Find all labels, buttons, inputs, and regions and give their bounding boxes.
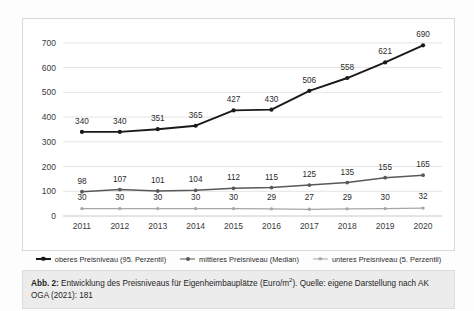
- line-chart-svg: 0100200300400500600700 20112012201320142…: [23, 19, 456, 252]
- data-point: [232, 186, 236, 190]
- y-tick-label: 400: [42, 112, 56, 122]
- data-point: [346, 207, 349, 210]
- data-point: [194, 207, 197, 210]
- data-point-label: 104: [189, 175, 203, 184]
- y-tick-label: 200: [42, 162, 56, 172]
- data-point-label: 32: [418, 192, 428, 201]
- data-point-label: 558: [340, 63, 354, 72]
- data-point-label: 30: [381, 193, 391, 202]
- data-point: [270, 207, 273, 210]
- data-point-label: 115: [265, 173, 278, 182]
- data-point-label: 621: [378, 47, 392, 56]
- data-point: [383, 207, 386, 210]
- legend-label: oberes Preisniveau (95. Perzentil): [55, 255, 166, 264]
- data-point: [118, 207, 121, 210]
- x-tick-label: 2014: [186, 221, 205, 231]
- data-point: [118, 188, 122, 192]
- figure-caption: Abb. 2: Entwicklung des Preisniveaus für…: [22, 270, 455, 309]
- data-point-label: 427: [227, 95, 241, 104]
- data-point-label: 340: [75, 117, 89, 126]
- data-point-label: 30: [191, 193, 201, 202]
- data-point-label: 351: [151, 114, 165, 123]
- chart-legend: oberes Preisniveau (95. Perzentil)mittle…: [22, 251, 455, 267]
- data-point: [80, 130, 84, 134]
- x-tick-label: 2019: [376, 221, 395, 231]
- data-point-labels: 3403403513654274305065586216909810710110…: [75, 30, 430, 202]
- legend-marker-icon: [180, 255, 195, 263]
- legend-item[interactable]: unteres Preisniveau (5. Perzentil): [313, 255, 441, 264]
- data-point: [308, 208, 311, 211]
- legend-label: mittleres Preisniveau (Median): [199, 255, 299, 264]
- x-tick-label: 2016: [262, 221, 281, 231]
- legend-item[interactable]: oberes Preisniveau (95. Perzentil): [36, 255, 166, 264]
- data-series-group: [80, 43, 425, 211]
- data-point-label: 101: [151, 176, 165, 185]
- data-point: [118, 130, 122, 134]
- data-point-label: 340: [113, 117, 127, 126]
- data-point: [307, 183, 311, 187]
- data-point-label: 125: [303, 170, 317, 179]
- caption-label: Abb. 2:: [31, 279, 59, 288]
- data-point-label: 365: [189, 111, 203, 120]
- data-point-label: 27: [305, 193, 315, 202]
- data-point: [80, 207, 83, 210]
- data-point-label: 430: [265, 95, 279, 104]
- figure-container: 0100200300400500600700 20112012201320142…: [0, 0, 474, 311]
- y-tick-label: 0: [51, 211, 56, 221]
- data-point-label: 135: [340, 168, 354, 177]
- y-tick-label: 500: [42, 87, 56, 97]
- y-tick-label: 600: [42, 63, 56, 73]
- data-point: [270, 186, 274, 190]
- x-tick-label: 2011: [73, 221, 92, 231]
- data-point: [307, 89, 311, 93]
- data-point-label: 690: [416, 30, 430, 39]
- x-tick-label: 2018: [338, 221, 357, 231]
- data-point: [421, 173, 425, 177]
- data-point: [156, 127, 160, 131]
- y-tick-label: 700: [42, 38, 56, 48]
- series-line: [82, 45, 423, 132]
- legend-marker-icon: [313, 255, 328, 263]
- data-point-label: 112: [227, 173, 240, 182]
- data-point: [383, 60, 387, 64]
- x-tick-label: 2013: [148, 221, 167, 231]
- data-point: [231, 108, 235, 112]
- data-point: [383, 176, 387, 180]
- y-axis-tick-labels: 0100200300400500600700: [42, 38, 56, 221]
- data-point: [232, 207, 235, 210]
- data-point-label: 107: [113, 175, 127, 184]
- legend-item[interactable]: mittleres Preisniveau (Median): [180, 255, 299, 264]
- series-line: [82, 208, 423, 209]
- y-tick-label: 300: [42, 137, 56, 147]
- x-axis-tick-labels: 2011201220132014201520162017201820192020: [73, 221, 433, 231]
- data-point-label: 506: [303, 76, 317, 85]
- data-point-label: 165: [416, 160, 430, 169]
- data-point: [269, 108, 273, 112]
- data-point-label: 30: [229, 193, 239, 202]
- chart-plot-area: 0100200300400500600700 20112012201320142…: [22, 18, 455, 251]
- series-line: [82, 175, 423, 192]
- data-point: [345, 76, 349, 80]
- x-tick-label: 2012: [110, 221, 129, 231]
- y-tick-label: 100: [42, 186, 56, 196]
- data-point-label: 30: [115, 193, 125, 202]
- legend-label: unteres Preisniveau (5. Perzentil): [332, 255, 441, 264]
- x-tick-label: 2020: [414, 221, 433, 231]
- caption-text-part1: Entwicklung des Preisniveaus für Eigenhe…: [59, 279, 289, 288]
- data-point: [421, 206, 424, 209]
- data-point: [156, 207, 159, 210]
- data-point: [421, 43, 425, 47]
- data-point-label: 30: [153, 193, 163, 202]
- data-point: [194, 124, 198, 128]
- data-point-label: 98: [77, 177, 87, 186]
- legend-marker-icon: [36, 255, 51, 263]
- data-point-label: 29: [343, 193, 353, 202]
- data-point-label: 30: [77, 193, 87, 202]
- data-point: [345, 181, 349, 185]
- x-tick-label: 2017: [300, 221, 319, 231]
- x-tick-label: 2015: [224, 221, 243, 231]
- data-point-label: 29: [267, 193, 277, 202]
- data-point-label: 155: [378, 163, 392, 172]
